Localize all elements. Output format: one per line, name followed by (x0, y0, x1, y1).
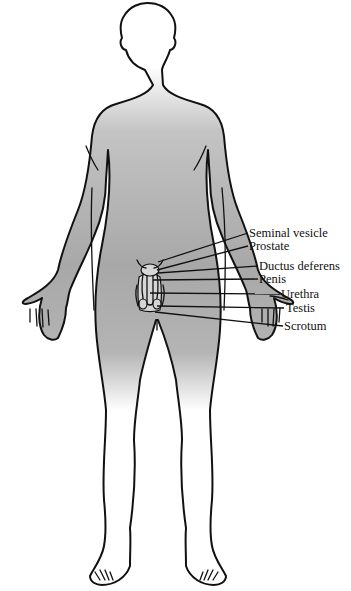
body-diagram: Seminal vesicle Prostate Ductus deferens… (0, 0, 351, 591)
label-testis: Testis (286, 301, 315, 315)
label-ductus-deferens: Ductus deferens (259, 259, 340, 273)
testis-left (139, 299, 147, 309)
prostate-shape (141, 264, 159, 276)
label-penis: Penis (259, 272, 286, 286)
testis-right (153, 299, 161, 309)
label-seminal-vesicle: Seminal vesicle (249, 226, 328, 240)
label-prostate: Prostate (249, 239, 290, 253)
label-scrotum: Scrotum (284, 319, 327, 333)
label-urethra: Urethra (281, 287, 320, 301)
